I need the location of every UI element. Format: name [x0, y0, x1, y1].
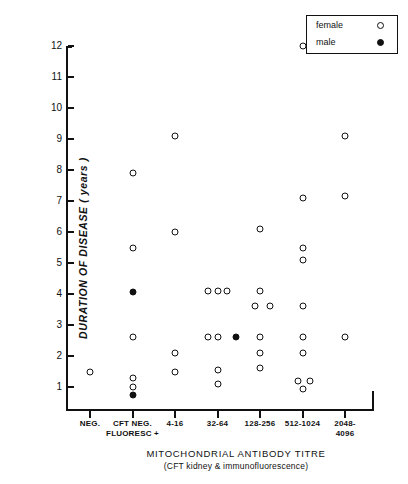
data-point-female	[257, 287, 264, 294]
y-tick-2	[68, 355, 74, 357]
filled-circle-icon	[377, 39, 384, 46]
data-point-female	[205, 287, 212, 294]
y-tick-label-4: 4	[56, 289, 62, 299]
y-tick-label-5: 5	[56, 258, 62, 268]
y-tick-label-10: 10	[51, 103, 62, 113]
data-point-male	[233, 334, 240, 341]
x-tick-label-0: NEG.	[80, 419, 100, 429]
data-point-female	[299, 385, 306, 392]
legend-item-female: female	[307, 18, 399, 34]
data-point-female	[257, 225, 264, 232]
x-axis-line	[66, 409, 374, 411]
y-tick-label-2: 2	[56, 351, 62, 361]
data-point-female	[257, 349, 264, 356]
data-point-female	[299, 244, 306, 251]
x-tick-4	[259, 411, 261, 418]
data-point-female	[214, 380, 221, 387]
y-tick-4	[68, 293, 74, 295]
x-axis-right-cap	[372, 391, 374, 411]
data-point-female	[299, 43, 306, 50]
x-axis-subtitle: (CFT kidney & immunofluorescence)	[86, 461, 386, 472]
y-tick-10	[68, 107, 74, 109]
x-axis-tick-labels: NEG.CFT NEG. FLUORESC +4-1632-64128-2565…	[66, 419, 396, 449]
data-point-female	[205, 334, 212, 341]
data-point-female	[299, 256, 306, 263]
data-point-female	[267, 303, 274, 310]
y-tick-label-3: 3	[56, 320, 62, 330]
data-point-female	[214, 334, 221, 341]
data-point-female	[299, 334, 306, 341]
data-point-female	[129, 384, 136, 391]
y-tick-label-8: 8	[56, 165, 62, 175]
data-point-female	[223, 287, 230, 294]
x-axis-title: MITOCHONDRIAL ANTIBODY TITRE	[86, 448, 386, 460]
legend-label-female: female	[316, 20, 343, 30]
y-axis-tick-labels: 123456789101112	[30, 46, 62, 411]
y-tick-label-7: 7	[56, 196, 62, 206]
data-point-female	[251, 303, 258, 310]
x-tick-1	[132, 411, 134, 418]
y-tick-8	[68, 169, 74, 171]
data-point-female	[129, 334, 136, 341]
x-tick-label-3: 32-64	[207, 419, 228, 429]
data-point-female	[342, 193, 349, 200]
y-tick-label-9: 9	[56, 134, 62, 144]
y-tick-label-1: 1	[56, 382, 62, 392]
data-point-female	[129, 170, 136, 177]
open-circle-icon	[377, 22, 384, 29]
y-axis-title: DURATION OF DISEASE ( years )	[77, 143, 89, 353]
y-tick-7	[68, 200, 74, 202]
y-tick-label-12: 12	[51, 41, 62, 51]
plot-area: DURATION OF DISEASE ( years )	[66, 46, 374, 411]
data-point-female	[214, 287, 221, 294]
x-tick-label-5: 512-1024	[285, 419, 320, 429]
y-tick-label-6: 6	[56, 227, 62, 237]
y-tick-12	[68, 45, 74, 47]
x-tick-label-2: 4-16	[167, 419, 184, 429]
x-tick-2	[174, 411, 176, 418]
data-point-male	[129, 289, 136, 296]
x-tick-label-6: 2048- 4096	[334, 419, 355, 438]
x-tick-3	[217, 411, 219, 418]
y-tick-6	[68, 231, 74, 233]
data-point-female	[129, 244, 136, 251]
x-tick-label-1: CFT NEG. FLUORESC +	[106, 419, 159, 438]
data-point-female	[257, 365, 264, 372]
data-point-female	[299, 194, 306, 201]
data-point-female	[342, 132, 349, 139]
scatter-plot-figure: female male 123456789101112 DURATION OF …	[0, 0, 408, 484]
data-point-female	[172, 132, 179, 139]
y-tick-9	[68, 138, 74, 140]
x-tick-label-4: 128-256	[245, 419, 276, 429]
data-point-female	[214, 366, 221, 373]
data-point-female	[342, 334, 349, 341]
data-point-female	[295, 377, 302, 384]
data-point-female	[87, 368, 94, 375]
x-tick-6	[344, 411, 346, 418]
y-tick-label-11: 11	[52, 72, 62, 82]
data-point-female	[257, 334, 264, 341]
x-tick-5	[302, 411, 304, 418]
x-tick-0	[89, 411, 91, 418]
y-tick-5	[68, 262, 74, 264]
y-tick-11	[68, 76, 74, 78]
data-point-male	[129, 391, 136, 398]
data-point-female	[172, 368, 179, 375]
data-point-female	[129, 374, 136, 381]
data-point-female	[299, 349, 306, 356]
y-tick-1	[68, 386, 74, 388]
data-point-female	[299, 303, 306, 310]
data-point-female	[172, 349, 179, 356]
data-point-female	[172, 229, 179, 236]
data-point-female	[306, 377, 313, 384]
y-tick-3	[68, 324, 74, 326]
